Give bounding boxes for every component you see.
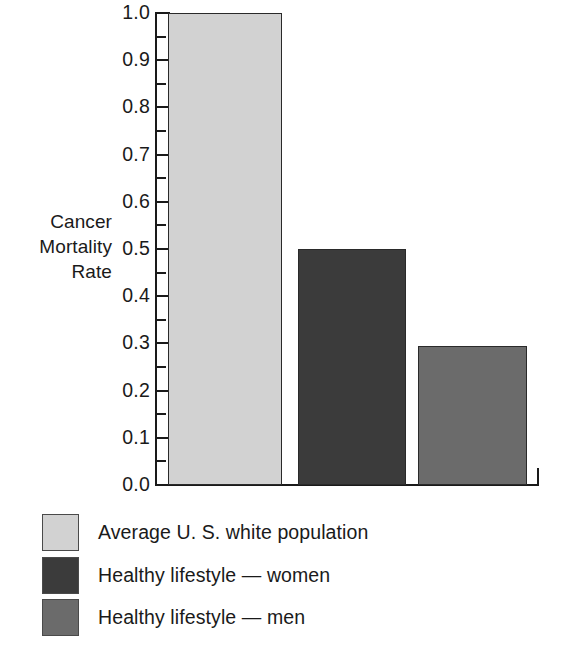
legend-label: Healthy lifestyle — women — [98, 564, 330, 587]
y-tick-label-0-3: 0.3 — [106, 333, 150, 353]
legend-label: Healthy lifestyle — men — [98, 606, 305, 629]
legend-swatch-icon — [42, 514, 79, 551]
y-axis-line — [155, 12, 157, 486]
x-axis-right-end-cap — [537, 468, 539, 486]
y-tick-label-0-2: 0.2 — [106, 381, 150, 401]
y-minor-tick — [157, 130, 166, 132]
y-axis-title: Cancer Mortality Rate — [8, 209, 112, 284]
y-minor-tick — [157, 36, 166, 38]
y-tick-label-0-0: 0.0 — [106, 475, 150, 495]
y-minor-tick — [157, 177, 166, 179]
bar-chart-figure: Cancer Mortality Rate 1.00.90.80.70.60.5… — [0, 0, 561, 656]
y-minor-tick — [157, 224, 166, 226]
y-minor-tick — [157, 413, 166, 415]
y-minor-tick — [157, 319, 166, 321]
y-minor-tick — [157, 83, 166, 85]
y-tick-label-0-8: 0.8 — [106, 97, 150, 117]
plot-area: Cancer Mortality Rate 1.00.90.80.70.60.5… — [0, 0, 561, 500]
y-minor-tick — [157, 460, 166, 462]
chart-legend: Average U. S. white populationHealthy li… — [0, 500, 561, 656]
bar-average-us-white-population — [168, 13, 282, 485]
legend-swatch-icon — [42, 599, 79, 636]
legend-label: Average U. S. white population — [98, 521, 368, 544]
legend-swatch-icon — [42, 557, 79, 594]
y-tick-label-0-6: 0.6 — [106, 192, 150, 212]
y-tick-label-0-7: 0.7 — [106, 145, 150, 165]
y-tick-label-0-4: 0.4 — [106, 286, 150, 306]
y-tick-label-0-1: 0.1 — [106, 428, 150, 448]
y-tick-label-0-9: 0.9 — [106, 50, 150, 70]
bar-healthy-lifestyle-women — [298, 249, 406, 485]
y-tick-label-1-0: 1.0 — [106, 3, 150, 23]
y-tick-label-0-5: 0.5 — [106, 239, 150, 259]
y-minor-tick — [157, 272, 166, 274]
y-minor-tick — [157, 366, 166, 368]
bar-healthy-lifestyle-men — [418, 346, 527, 485]
